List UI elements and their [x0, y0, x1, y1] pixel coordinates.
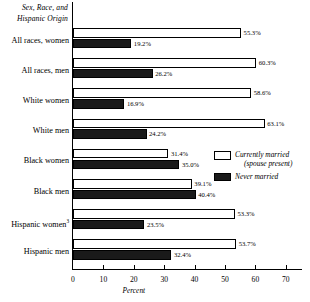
category-label: All races, women [0, 36, 69, 45]
chart-legend: Currently married (spouse present) Never… [214, 150, 308, 186]
x-axis-tick-label: 0 [71, 275, 75, 284]
bar-value-label: 26.2% [155, 69, 172, 79]
x-axis-tick [225, 265, 226, 269]
bar-currently-married [73, 179, 192, 189]
legend-swatch-never-married [214, 173, 231, 182]
bar-value-label: 19.2% [134, 39, 151, 49]
legend-item-never-married: Never married [214, 172, 308, 183]
bar-never-married [73, 160, 179, 170]
legend-label-never-married: Never married [235, 172, 308, 181]
bar-never-married [73, 69, 153, 79]
bar-value-label: 35.0% [182, 160, 199, 170]
bar-currently-married [73, 28, 241, 38]
bar-value-label: 58.6% [254, 88, 271, 98]
bar-currently-married [73, 149, 168, 159]
bar-currently-married [73, 239, 236, 249]
bar-value-label: 16.9% [127, 99, 144, 109]
bar-currently-married [73, 209, 235, 219]
x-axis-tick-label: 40 [191, 275, 199, 284]
bar-value-label: 23.5% [147, 220, 164, 230]
bar-value-label: 39.1% [194, 179, 211, 189]
legend-swatch-currently-married [214, 151, 231, 160]
x-axis-tick-label: 20 [130, 275, 138, 284]
category-label: White men [0, 126, 69, 135]
legend-label-currently-married: Currently married (spouse present) [235, 150, 308, 169]
legend-label-line2: (spouse present) [235, 159, 308, 168]
bar-currently-married [73, 58, 256, 68]
x-axis-tick [103, 265, 104, 269]
x-axis-tick-label: 60 [252, 275, 260, 284]
category-label: All races, men [0, 66, 69, 75]
corner-title: Sex, Race, and Hispanic Origin [0, 3, 68, 24]
x-axis-title: Percent [122, 286, 145, 295]
x-axis-tick [195, 265, 196, 269]
bar-value-label: 53.3% [238, 209, 255, 219]
bar-currently-married [73, 88, 251, 98]
bar-value-label: 60.3% [259, 58, 276, 68]
value-axis-line [72, 269, 302, 270]
bar-never-married [73, 129, 147, 139]
category-label: Black women [0, 156, 69, 165]
bar-value-label: 32.4% [174, 250, 191, 260]
bar-value-label: 63.1% [267, 119, 284, 129]
x-axis-tick [286, 265, 287, 269]
bar-currently-married [73, 119, 265, 129]
bar-never-married [73, 99, 124, 109]
bar-never-married [73, 190, 196, 200]
bar-never-married [73, 250, 171, 260]
category-label: White women [0, 96, 69, 105]
bar-value-label: 53.7% [239, 239, 256, 249]
bar-value-label: 40.4% [198, 190, 215, 200]
category-label: Black men [0, 187, 69, 196]
bar-never-married [73, 39, 131, 49]
x-axis-tick [255, 265, 256, 269]
chart-container: Sex, Race, and Hispanic Origin All races… [0, 0, 310, 302]
x-axis-tick-label: 10 [100, 275, 108, 284]
bar-never-married [73, 220, 144, 230]
x-axis-tick-label: 70 [282, 275, 290, 284]
x-axis-tick [134, 265, 135, 269]
bar-value-label: 31.4% [171, 149, 188, 159]
x-axis-tick-label: 30 [160, 275, 168, 284]
category-footnote-marker: 3 [66, 218, 69, 224]
bar-value-label: 24.2% [149, 129, 166, 139]
legend-item-currently-married: Currently married (spouse present) [214, 150, 308, 169]
bar-value-label: 55.3% [244, 28, 261, 38]
x-axis-tick [164, 265, 165, 269]
category-label: Hispanic men [0, 247, 69, 256]
x-axis-tick-label: 50 [221, 275, 229, 284]
category-label: Hispanic women3 [0, 217, 69, 229]
legend-label-line1: Currently married [235, 150, 289, 159]
